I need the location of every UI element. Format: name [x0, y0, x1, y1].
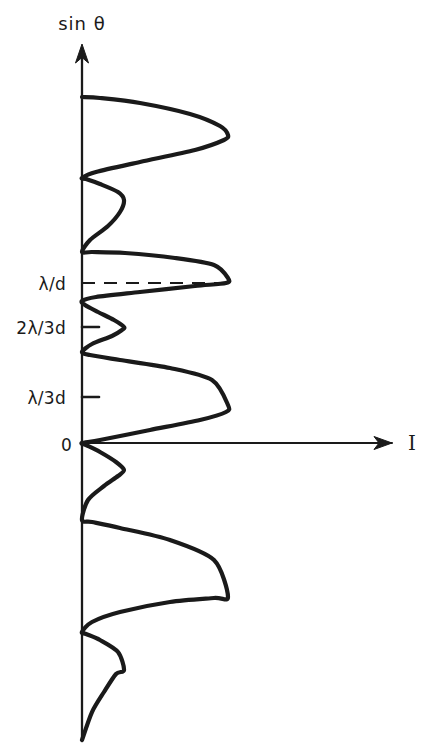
tick-label-lambda-over-d: λ/d — [39, 274, 66, 294]
plot-canvas: λ/d 2λ/3d λ/3d 0 sin θ I — [0, 0, 448, 754]
vertical-axis-label: sin θ — [58, 13, 106, 34]
horizontal-axis — [82, 437, 392, 450]
diffraction-plot-figure: λ/d 2λ/3d λ/3d 0 sin θ I — [0, 0, 448, 754]
tick-label-zero: 0 — [61, 435, 72, 455]
horizontal-axis-label: I — [408, 431, 416, 455]
tick-label-two-lambda-over-3d: 2λ/3d — [16, 318, 66, 338]
intensity-curve — [81, 97, 229, 740]
tick-label-lambda-over-3d: λ/3d — [27, 388, 66, 408]
